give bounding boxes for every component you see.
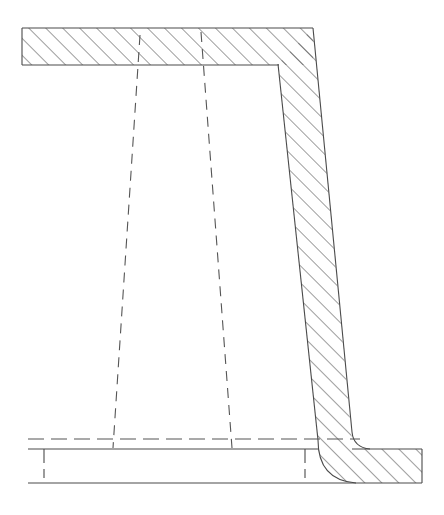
tapered-vertical-column [278,28,352,440]
fillet-hatch-fill [318,440,352,449]
technical-drawing-canvas [0,0,444,515]
hidden-lines-group [113,32,232,448]
top-horizontal-bar [22,28,313,65]
hidden-edge-left [113,35,140,448]
bottom-horizontal-flange [28,432,430,490]
fillet-hatch-group [318,440,352,449]
cross-section-drawing [0,0,444,515]
top-bar-hatch-fill [22,28,313,65]
column-hatch-fill [278,28,352,440]
hidden-edge-right [201,32,232,448]
fillet-radius-arc-right [352,432,370,449]
